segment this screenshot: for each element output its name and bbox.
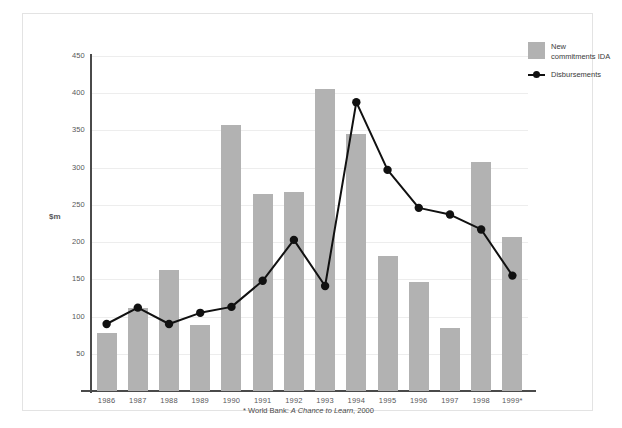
y-axis-tick-label: 450 (45, 51, 85, 60)
y-axis-tick: 50 (41, 349, 85, 359)
y-axis-tick-label: 350 (45, 125, 85, 134)
y-axis-tick: 300 (41, 163, 85, 173)
y-axis-tick: 100 (41, 312, 85, 322)
y-axis-tick-label: 150 (45, 274, 85, 283)
line-series-disbursements (91, 56, 528, 391)
y-axis-tick-label: 100 (45, 312, 85, 321)
data-point-marker (383, 166, 391, 174)
chart-footnote: * World Bank: A Chance to Learn, 2000 (23, 406, 594, 415)
data-point-marker (165, 320, 173, 328)
y-axis-tick: 200 (41, 237, 85, 247)
data-point-marker (134, 303, 142, 311)
data-point-marker (258, 277, 266, 285)
legend-marker-line-icon (528, 70, 545, 79)
legend-item-disbursements: Disbursements (528, 70, 622, 80)
data-point-marker (415, 204, 423, 212)
y-axis-tick-label: 250 (45, 200, 85, 209)
chart-figure: 50100150200250300350400450 $m 1986198719… (0, 0, 622, 428)
footnote-source-title: A Chance to Learn (291, 406, 353, 415)
y-axis-tick-label: 50 (45, 349, 85, 358)
y-axis-label: $m (49, 212, 61, 221)
data-point-marker (227, 303, 235, 311)
x-axis-tick-label: 1999* (492, 396, 532, 405)
chart-frame: 50100150200250300350400450 $m 1986198719… (22, 13, 593, 411)
data-point-marker (321, 282, 329, 290)
data-point-marker (196, 309, 204, 317)
footnote-suffix: , 2000 (353, 406, 374, 415)
y-axis-tick-label: 200 (45, 237, 85, 246)
y-axis-tick: 450 (41, 51, 85, 61)
legend-label-disbursements: Disbursements (551, 70, 601, 80)
data-point-marker (446, 210, 454, 218)
y-axis-tick: 400 (41, 88, 85, 98)
y-axis-tick: 250 (41, 200, 85, 210)
chart-legend: New commitments IDA Disbursements (528, 42, 622, 80)
y-axis-tick: 150 (41, 274, 85, 284)
y-axis-tick: 350 (41, 125, 85, 135)
legend-swatch-bar (528, 42, 545, 59)
y-axis-tick-label: 400 (45, 88, 85, 97)
y-axis-tick-label: 300 (45, 163, 85, 172)
footnote-prefix: World Bank: (248, 406, 291, 415)
data-point-marker (290, 236, 298, 244)
legend-label-new-commitments: New commitments IDA (551, 42, 611, 61)
data-point-marker (508, 271, 516, 279)
data-point-marker (102, 320, 110, 328)
data-point-marker (477, 225, 485, 233)
legend-item-new-commitments: New commitments IDA (528, 42, 622, 61)
data-point-marker (352, 98, 360, 106)
